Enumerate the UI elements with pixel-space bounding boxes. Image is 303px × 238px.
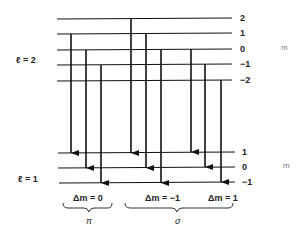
m-axis-label: m <box>283 161 290 171</box>
m-label: 1 <box>242 147 247 157</box>
m-label: 2 <box>240 13 245 23</box>
delta-m-label: Δm = 1 <box>208 193 238 203</box>
m-label: 0 <box>242 162 247 172</box>
pi-label: π <box>86 216 92 226</box>
m-label: 0 <box>240 44 245 54</box>
m-label: −2 <box>240 75 250 85</box>
braces <box>63 203 233 212</box>
m-label: 1 <box>240 28 245 38</box>
transition-arrows <box>71 19 221 183</box>
lower-level-label: ℓ = 1 <box>18 174 38 184</box>
delta-m-label: Δm = 0 <box>73 193 103 203</box>
delta-m-label: Δm = −1 <box>145 193 180 203</box>
m-label: −1 <box>240 59 250 69</box>
upper-level-label: ℓ = 2 <box>16 55 36 65</box>
m-axis-label: m <box>281 43 288 53</box>
m-label: −1 <box>242 177 252 187</box>
sigma-label: σ <box>175 216 180 226</box>
